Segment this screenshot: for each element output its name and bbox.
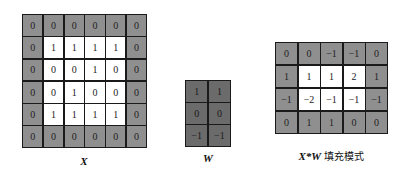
x-cell: 0 bbox=[23, 60, 42, 81]
x-cell: 0 bbox=[127, 15, 146, 36]
result-cell: 1 bbox=[276, 66, 297, 87]
x-cell: 1 bbox=[85, 37, 104, 58]
result-cell: 0 bbox=[366, 43, 387, 64]
x-cell: 0 bbox=[44, 15, 63, 36]
x-cell: 1 bbox=[85, 60, 104, 81]
w-cell: 0 bbox=[209, 103, 230, 124]
result-cell: 1 bbox=[299, 112, 320, 133]
x-cell: 0 bbox=[127, 126, 146, 147]
matrix-x-label-text: X bbox=[80, 155, 87, 167]
result-cell: 1 bbox=[299, 66, 320, 87]
matrix-x-grid: 000000011110000100001000011110000000 bbox=[22, 14, 147, 148]
x-cell: 0 bbox=[106, 82, 125, 103]
x-cell: 0 bbox=[23, 104, 42, 125]
x-cell: 0 bbox=[106, 126, 125, 147]
x-cell: 0 bbox=[44, 82, 63, 103]
result-label-text: 填充模式 bbox=[324, 151, 364, 162]
kernel-w-label: W bbox=[203, 152, 213, 164]
x-cell: 1 bbox=[65, 104, 84, 125]
x-cell: 0 bbox=[23, 15, 42, 36]
x-cell: 0 bbox=[65, 126, 84, 147]
result-cell: 0 bbox=[366, 112, 387, 133]
w-cell: 0 bbox=[186, 103, 207, 124]
result-label: X*W 填充模式 bbox=[298, 148, 363, 163]
x-cell: 0 bbox=[85, 15, 104, 36]
x-cell: 0 bbox=[127, 82, 146, 103]
kernel-w-grid: 1100−1−1 bbox=[185, 80, 231, 147]
result-cell: 1 bbox=[321, 66, 342, 87]
result-cell: 0 bbox=[344, 112, 365, 133]
result-cell: 0 bbox=[299, 43, 320, 64]
x-cell: 0 bbox=[127, 37, 146, 58]
x-cell: 0 bbox=[23, 37, 42, 58]
x-cell: 0 bbox=[44, 126, 63, 147]
x-cell: 1 bbox=[85, 104, 104, 125]
result-cell: 0 bbox=[276, 112, 297, 133]
x-cell: 0 bbox=[106, 60, 125, 81]
x-cell: 0 bbox=[23, 82, 42, 103]
w-cell: −1 bbox=[209, 125, 230, 146]
result-cell: −1 bbox=[321, 43, 342, 64]
w-cell: −1 bbox=[186, 125, 207, 146]
matrix-x-label: X bbox=[80, 155, 87, 167]
w-cell: 1 bbox=[186, 81, 207, 102]
x-cell: 1 bbox=[106, 37, 125, 58]
result-cell: 1 bbox=[366, 66, 387, 87]
x-cell: 0 bbox=[85, 82, 104, 103]
result-cell: 0 bbox=[276, 43, 297, 64]
x-cell: 1 bbox=[65, 37, 84, 58]
result-label-math: X*W bbox=[298, 150, 320, 162]
result-cell: 2 bbox=[344, 66, 365, 87]
result-cell: −1 bbox=[344, 43, 365, 64]
x-cell: 1 bbox=[106, 104, 125, 125]
result-cell: −1 bbox=[366, 89, 387, 110]
result-cell: −1 bbox=[321, 89, 342, 110]
x-cell: 0 bbox=[127, 60, 146, 81]
kernel-w-label-text: W bbox=[203, 152, 213, 164]
x-cell: 0 bbox=[44, 60, 63, 81]
x-cell: 0 bbox=[106, 15, 125, 36]
result-grid: 00−1−1011121−1−2−1−1−101100 bbox=[275, 42, 388, 134]
w-cell: 1 bbox=[209, 81, 230, 102]
x-cell: 0 bbox=[65, 15, 84, 36]
result-cell: −2 bbox=[299, 89, 320, 110]
x-cell: 1 bbox=[65, 82, 84, 103]
x-cell: 0 bbox=[127, 104, 146, 125]
result-cell: 1 bbox=[321, 112, 342, 133]
x-cell: 0 bbox=[65, 60, 84, 81]
x-cell: 1 bbox=[44, 37, 63, 58]
x-cell: 0 bbox=[85, 126, 104, 147]
result-cell: −1 bbox=[276, 89, 297, 110]
result-cell: −1 bbox=[344, 89, 365, 110]
x-cell: 0 bbox=[23, 126, 42, 147]
x-cell: 1 bbox=[44, 104, 63, 125]
